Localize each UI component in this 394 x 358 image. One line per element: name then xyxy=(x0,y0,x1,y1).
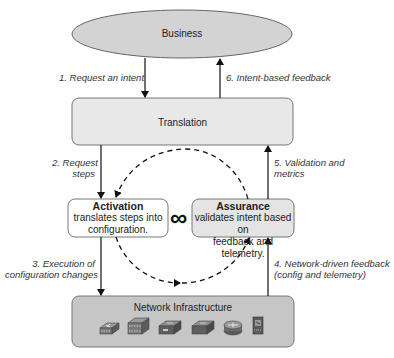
business-label: Business xyxy=(72,28,292,39)
assurance-desc-line2: feedback and telemetry. xyxy=(213,236,273,259)
edge-label-5-line2: metrics xyxy=(274,168,305,179)
infinity-loop-icon: ∞ xyxy=(170,208,187,228)
edge-label-5-line1: 5. Validation and xyxy=(274,157,344,168)
assurance-title: Assurance xyxy=(191,200,295,212)
edge-label-4: 4. Network-driven feedback (config and t… xyxy=(274,258,390,280)
edge-label-4-line1: 4. Network-driven feedback xyxy=(274,258,390,269)
activation-desc-line2: configuration. xyxy=(88,224,148,235)
dashed-loop-bottom-arc xyxy=(116,237,180,283)
dashed-loop-top-arc xyxy=(116,149,248,199)
assurance-desc-line1: validates intent based on xyxy=(195,212,292,235)
edge-label-4-line2: (config and telemetry) xyxy=(274,269,366,280)
edge-label-6: 6. Intent-based feedback xyxy=(226,72,331,83)
network-infrastructure-label: Network Infrastructure xyxy=(72,302,294,313)
activation-text: Activation translates steps into configu… xyxy=(68,200,168,236)
edge-label-2: 2. Request steps xyxy=(52,157,95,179)
activation-desc-line1: translates steps into xyxy=(74,212,163,223)
server-icon xyxy=(253,317,263,334)
edge-label-3-line2: configuration changes xyxy=(5,269,98,280)
edge-label-2-line2: steps xyxy=(72,168,95,179)
translation-label: Translation xyxy=(72,117,293,128)
edge-label-3: 3. Execution of configuration changes xyxy=(5,258,95,280)
router-icon xyxy=(224,321,242,335)
assurance-text: Assurance validates intent based on feed… xyxy=(191,200,295,260)
edge-label-2-line1: 2. Request xyxy=(52,157,98,168)
edge-label-1: 1. Request an intent xyxy=(59,72,144,83)
activation-title: Activation xyxy=(68,200,168,212)
multilayer-switch-icon xyxy=(128,318,149,334)
edge-label-5: 5. Validation and metrics xyxy=(274,157,344,179)
edge-label-3-line1: 3. Execution of xyxy=(32,258,95,269)
